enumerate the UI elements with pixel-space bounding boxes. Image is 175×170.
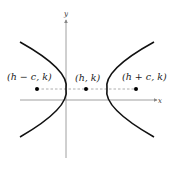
y-axis-label: y [63, 10, 69, 18]
center-point [84, 87, 88, 91]
x-axis-label: x [158, 97, 162, 105]
right-focus-point [134, 87, 138, 91]
left-focus-point [35, 87, 39, 91]
left-focus-label: (h − c, k) [7, 71, 52, 82]
center-label: (h, k) [75, 72, 101, 83]
hyperbola-right-branch [107, 42, 154, 137]
hyperbola-left-branch [20, 42, 66, 137]
hyperbola-diagram: x y (h − c, k) (h, k) (h + c, k) [0, 0, 175, 170]
diagram-svg: x y (h − c, k) (h, k) (h + c, k) [0, 0, 175, 170]
right-focus-label: (h + c, k) [122, 71, 167, 82]
